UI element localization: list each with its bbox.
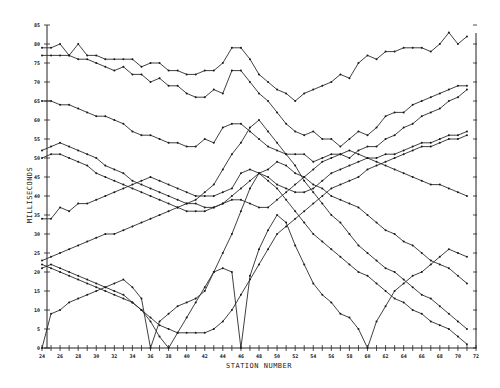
data-point [231,233,233,235]
series-line [42,173,467,348]
data-point [159,138,161,140]
data-point [276,111,278,113]
data-point [430,51,432,53]
data-point [222,252,224,254]
data-point [140,222,142,224]
data-point [348,165,350,167]
data-point [457,191,459,193]
data-point [95,172,97,174]
series-6 [41,130,468,219]
data-point [258,119,260,121]
data-point [448,187,450,189]
data-point [357,153,359,155]
x-tick-label: 28 [75,353,81,359]
data-point [95,237,97,239]
data-point [376,58,378,60]
data-point [357,149,359,151]
data-point [50,267,52,269]
data-point [294,165,296,167]
data-point [339,168,341,170]
data-point [276,187,278,189]
data-point [140,309,142,311]
data-point [294,130,296,132]
data-point [348,149,350,151]
data-point [122,172,124,174]
data-point [321,161,323,163]
data-point [104,115,106,117]
data-point [367,146,369,148]
data-point [457,96,459,98]
data-point [231,187,233,189]
data-point [330,172,332,174]
data-point [50,256,52,258]
data-point [421,115,423,117]
y-tick-label: 55 [34,136,40,142]
data-point [276,149,278,151]
data-point [113,294,115,296]
data-point [68,104,70,106]
data-point [439,108,441,110]
data-point [367,347,369,349]
data-point [177,332,179,334]
data-point [276,184,278,186]
data-point [104,195,106,197]
data-point [457,275,459,277]
data-point [104,176,106,178]
data-point [466,89,468,91]
data-point [186,317,188,319]
data-point [177,305,179,307]
series-9 [41,172,468,349]
data-point [330,301,332,303]
data-point [168,184,170,186]
data-point [466,256,468,258]
axes: 0510152025303540455055606570758085242628… [34,22,479,359]
data-point [68,210,70,212]
data-point [122,58,124,60]
data-point [122,187,124,189]
data-point [186,332,188,334]
data-point [204,138,206,140]
data-point [466,195,468,197]
data-point [177,199,179,201]
data-point [403,47,405,49]
data-point [466,85,468,87]
data-point [330,214,332,216]
data-point [439,92,441,94]
data-point [222,203,224,205]
data-point [168,70,170,72]
data-point [140,191,142,193]
data-point [231,123,233,125]
data-point [412,244,414,246]
data-point [86,294,88,296]
data-point [339,313,341,315]
data-point [294,210,296,212]
data-point [385,51,387,53]
data-point [294,218,296,220]
data-point [376,222,378,224]
data-point [159,191,161,193]
data-point [285,165,287,167]
data-point [222,168,224,170]
data-point [267,130,269,132]
data-point [321,294,323,296]
data-point [321,241,323,243]
data-point [330,195,332,197]
data-point [421,271,423,273]
data-point [466,130,468,132]
data-point [403,301,405,303]
data-point [421,47,423,49]
x-tick-label: 32 [111,353,117,359]
data-point [77,275,79,277]
data-point [41,54,43,56]
data-point [421,180,423,182]
data-point [466,343,468,345]
x-tick-label: 26 [57,353,63,359]
data-point [186,210,188,212]
data-point [77,203,79,205]
data-point [267,176,269,178]
data-point [339,222,341,224]
data-point [77,161,79,163]
data-point [258,206,260,208]
data-point [213,89,215,91]
data-point [357,176,359,178]
